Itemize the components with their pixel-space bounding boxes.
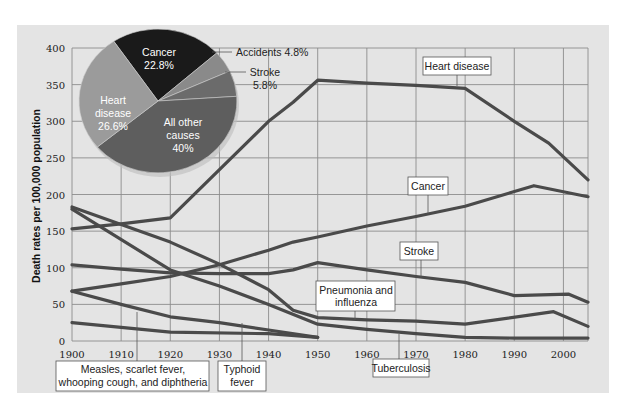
tuberculosis-label: Tuberculosis [371, 362, 430, 374]
y-tick-label-250: 250 [46, 153, 65, 164]
y-tick-label-150: 150 [46, 226, 65, 237]
pie-label-other-1: All other [164, 116, 203, 128]
typhoid-label-line2: fever [230, 376, 254, 388]
measles-label-line1: Measles, scarlet fever, [81, 363, 185, 375]
pie-label-heart-1: Heart [100, 94, 126, 106]
x-tick-label-2000: 2000 [551, 349, 576, 360]
y-tick-label-350: 350 [46, 80, 65, 91]
x-tick-label-1910: 1910 [108, 349, 133, 360]
x-tick-label-1950: 1950 [305, 349, 330, 360]
x-tick-label-1990: 1990 [502, 349, 527, 360]
y-tick-label-50: 50 [52, 299, 65, 310]
pie-callout-stroke-1: Stroke [250, 66, 281, 78]
x-tick-label-1960: 1960 [354, 349, 379, 360]
pie-label-heart-2: disease [95, 107, 131, 119]
y-tick-label-400: 400 [46, 43, 65, 54]
x-tick-label-1900: 1900 [59, 349, 84, 360]
death-rates-chart: 050100150200250300350400 190019101920193… [0, 0, 620, 416]
heart-disease-label: Heart disease [425, 60, 490, 72]
x-tick-label-1940: 1940 [256, 349, 281, 360]
stroke-label: Stroke [404, 245, 435, 257]
y-tick-label-200: 200 [46, 190, 65, 201]
pneumonia-label-line1: Pneumonia and [319, 284, 393, 296]
pie-callout-stroke-2: 5.8% [253, 79, 277, 91]
typhoid-label-line1: Typhoid [224, 363, 261, 375]
x-tick-label-1970: 1970 [403, 349, 428, 360]
measles-label-line2: whooping cough, and diphtheria [58, 376, 208, 388]
pneumonia-label-line2: influenza [335, 296, 377, 308]
y-axis-title: Death rates per 100,000 population [30, 109, 42, 283]
pie-label-other-2: causes [166, 129, 199, 141]
y-tick-label-300: 300 [46, 116, 65, 127]
x-tick-label-1920: 1920 [158, 349, 183, 360]
pie-value-cancer: 22.8% [144, 59, 174, 71]
x-tick-label-1980: 1980 [452, 349, 477, 360]
x-tick-label-1930: 1930 [207, 349, 232, 360]
pie-value-other: 40% [172, 142, 193, 154]
y-tick-label-100: 100 [46, 263, 65, 274]
pie-value-heart: 26.6% [98, 120, 128, 132]
cancer-label: Cancer [411, 180, 445, 192]
pie-callout-accidents: Accidents 4.8% [236, 46, 308, 58]
pie-label-cancer: Cancer [142, 46, 176, 58]
y-tick-label-0: 0 [59, 336, 65, 347]
